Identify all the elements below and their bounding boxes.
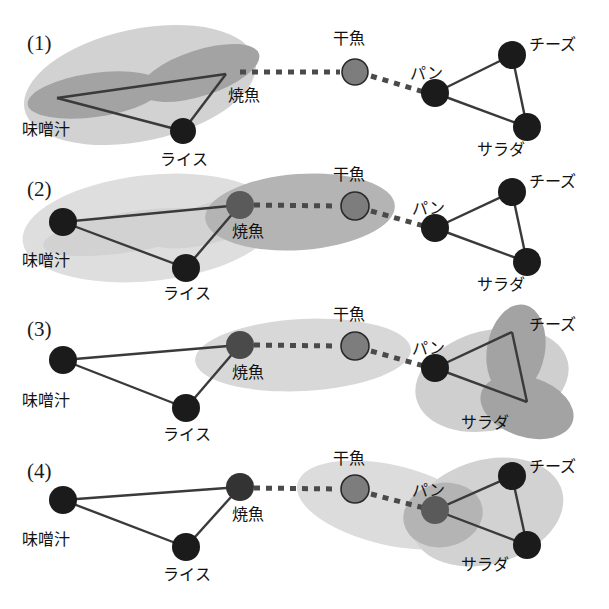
node-rice[interactable] [172,254,200,282]
node-label-miso: 味噌汁 [22,530,70,549]
node-label-salad: サラダ [477,275,525,294]
node-grilled-fish[interactable] [226,331,254,359]
node-rice[interactable] [170,118,196,144]
node-dried-fish[interactable] [341,332,369,360]
node-label-cheese: チーズ [529,35,576,54]
node-bread[interactable] [421,214,449,242]
node-dried-fish[interactable] [341,475,369,503]
node-label-bread: パン [412,339,445,358]
figure-canvas: (1) 味噌汁 ライス 焼魚 干魚 パン チーズ サラダ (2) 味噌汁 ライス… [0,0,609,609]
node-label-miso: 味噌汁 [22,391,70,410]
node-cheese[interactable] [498,462,526,490]
graph-clustering-figure: (1) 味噌汁 ライス 焼魚 干魚 パン チーズ サラダ (2) 味噌汁 ライス… [0,0,609,609]
node-grilled-fish[interactable] [226,191,254,219]
node-bread[interactable] [421,354,449,382]
node-label-rice: ライス [163,425,211,444]
node-label-salad: サラダ [477,140,525,159]
node-miso[interactable] [49,208,77,236]
node-label-dried-fish: 干魚 [333,305,365,324]
node-label-dried-fish: 干魚 [333,165,365,184]
node-label-dried-fish: 干魚 [333,449,365,468]
node-label-bread: パン [412,199,445,218]
node-label-miso: 味噌汁 [22,120,70,139]
node-label-grilled-fish: 焼魚 [232,505,264,524]
node-salad[interactable] [513,248,541,276]
node-grilled-fish[interactable] [226,473,254,501]
node-label-grilled-fish: 焼魚 [232,222,264,241]
node-label-cheese: チーズ [529,315,576,334]
node-label-dried-fish: 干魚 [333,29,365,48]
node-label-bread: パン [412,481,445,500]
node-miso[interactable] [49,486,77,514]
node-salad[interactable] [513,531,541,559]
row-label-3: (3) [27,317,52,341]
node-label-bread: パン [410,64,443,83]
node-label-cheese: チーズ [529,457,576,476]
row-label-1: (1) [27,31,52,55]
row-label-2: (2) [27,177,52,201]
node-label-rice: ライス [163,565,211,584]
node-dried-fish[interactable] [341,192,369,220]
node-label-salad: サラダ [461,555,509,574]
node-label-rice: ライス [163,284,211,303]
node-rice[interactable] [172,533,200,561]
node-label-miso: 味噌汁 [22,251,70,270]
node-dried-fish[interactable] [342,59,368,85]
node-miso[interactable] [49,346,77,374]
node-bread[interactable] [421,79,449,107]
node-label-grilled-fish: 焼魚 [228,86,260,105]
node-label-rice: ライス [160,150,208,169]
node-label-cheese: チーズ [529,172,576,191]
node-salad[interactable] [513,113,541,141]
node-cheese[interactable] [498,41,526,69]
row-label-4: (4) [27,459,52,483]
node-rice[interactable] [172,394,200,422]
node-bread[interactable] [421,496,449,524]
node-label-salad: サラダ [461,413,509,432]
node-label-grilled-fish: 焼魚 [232,363,264,382]
node-cheese[interactable] [498,178,526,206]
